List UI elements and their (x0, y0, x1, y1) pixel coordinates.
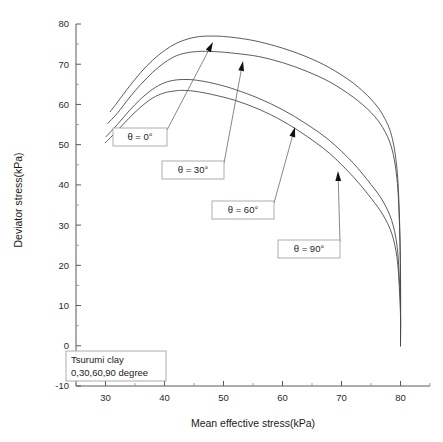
x-tick-label: 40 (159, 392, 170, 403)
x-axis-title: Mean effective stress(kPa) (191, 417, 315, 429)
annotation-label-1: θ = 30° (178, 164, 209, 175)
y-tick-label: 30 (58, 220, 69, 231)
y-tick-label: 0 (64, 340, 69, 351)
x-tick-label: 80 (395, 392, 406, 403)
y-tick-label: -10 (55, 380, 69, 391)
y-axis-title: Deviator stress(kPa) (12, 152, 24, 247)
deviator-stress-plot: -1001020304050607080304050607080 θ = 0°θ… (0, 0, 443, 442)
annotation-label-0: θ = 0° (127, 131, 152, 142)
x-tick-label: 50 (218, 392, 229, 403)
annotation-label-2: θ = 60° (228, 204, 259, 215)
caption-line-0: Tsurumi clay (71, 354, 124, 365)
x-tick-label: 70 (336, 392, 347, 403)
y-tick-label: 70 (58, 59, 69, 70)
x-tick-label: 60 (277, 392, 288, 403)
caption-line-1: 0,30,60,90 degree (71, 367, 148, 378)
chart-figure: -1001020304050607080304050607080 θ = 0°θ… (0, 0, 443, 442)
y-tick-label: 10 (58, 300, 69, 311)
y-tick-label: 60 (58, 99, 69, 110)
y-tick-label: 40 (58, 179, 69, 190)
annotation-label-3: θ = 90° (294, 243, 325, 254)
y-tick-label: 20 (58, 260, 69, 271)
caption-box: Tsurumi clay0,30,60,90 degree (66, 351, 166, 381)
y-tick-label: 80 (58, 18, 69, 29)
x-tick-label: 30 (100, 392, 111, 403)
y-tick-label: 50 (58, 139, 69, 150)
